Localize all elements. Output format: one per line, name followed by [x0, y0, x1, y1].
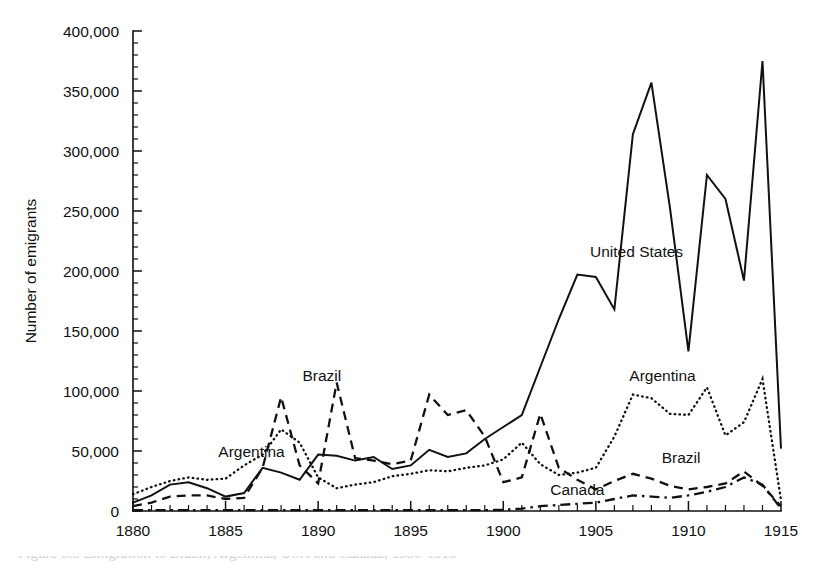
y-tick-label: 200,000 [63, 263, 119, 280]
x-tick-label: 1880 [116, 522, 151, 539]
x-tick-label: 1915 [764, 522, 798, 539]
y-axis-title: Number of emigrants [22, 198, 39, 343]
series-label-brazil-right: Brazil [662, 449, 701, 466]
x-tick-label: 1900 [486, 522, 521, 539]
y-tick-label: 400,000 [63, 23, 119, 40]
emigration-line-chart: 050,000100,000150,000200,000250,000300,0… [0, 0, 827, 572]
chart-background [0, 0, 827, 572]
series-label-canada: Canada [550, 481, 605, 498]
figure-caption-text: Figure 3.3 Emigration to Brazil, Argenti… [18, 556, 456, 562]
x-tick-label: 1905 [579, 522, 613, 539]
series-label-argentina-right: Argentina [629, 367, 696, 384]
x-tick-label: 1885 [208, 522, 242, 539]
series-label-brazil-left: Brazil [302, 367, 341, 384]
x-tick-label: 1890 [301, 522, 336, 539]
x-tick-label: 1895 [393, 522, 427, 539]
y-tick-label: 300,000 [63, 143, 119, 160]
figure-caption: Figure 3.3 Emigration to Brazil, Argenti… [18, 556, 808, 572]
series-label-argentina-left: Argentina [218, 443, 285, 460]
x-tick-label: 1910 [671, 522, 706, 539]
y-tick-label: 50,000 [72, 443, 120, 460]
y-tick-label: 350,000 [63, 83, 119, 100]
y-tick-label: 100,000 [63, 383, 119, 400]
series-label-united-states: United States [590, 243, 683, 260]
y-tick-label: 250,000 [63, 203, 119, 220]
figure-container: 050,000100,000150,000200,000250,000300,0… [0, 0, 827, 572]
y-tick-label: 150,000 [63, 323, 119, 340]
y-axis-tick-labels: 050,000100,000150,000200,000250,000300,0… [63, 23, 119, 520]
y-tick-label: 0 [110, 503, 119, 520]
